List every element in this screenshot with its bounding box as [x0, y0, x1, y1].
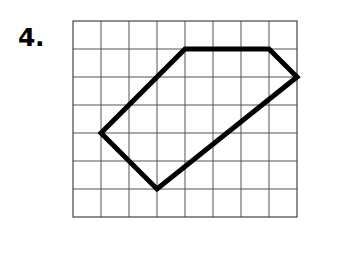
- grid-figure-svg: [0, 0, 341, 257]
- polygon-outline: [101, 49, 297, 189]
- figure-container: 4.: [0, 0, 341, 257]
- polygon-shape: [101, 49, 297, 189]
